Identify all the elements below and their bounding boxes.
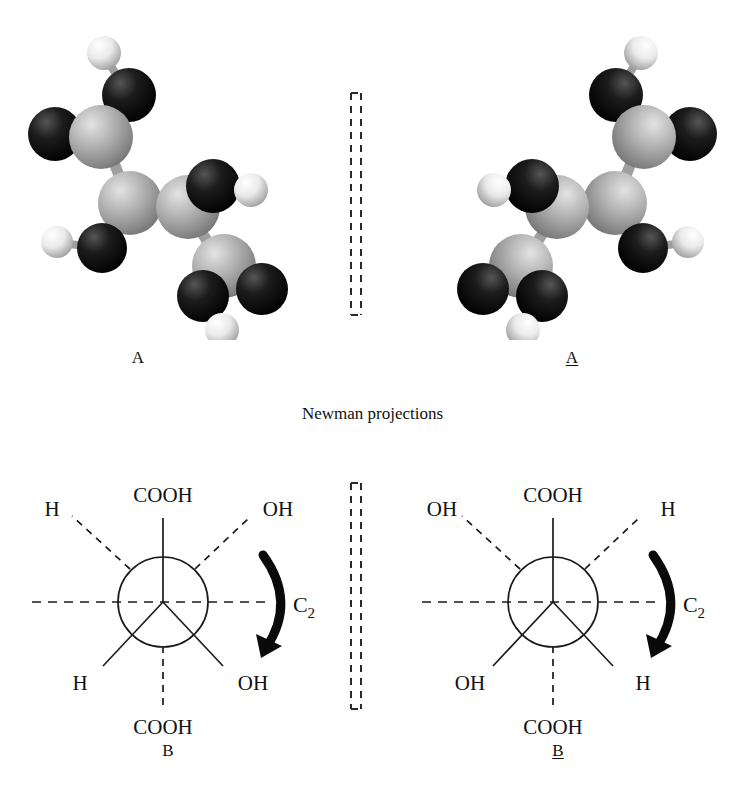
molecule-label-left: A [78,348,198,368]
newman-label-front-bottom-right: H [635,671,650,695]
newman-label-back-top-left: OH [427,497,457,521]
newman-projection-left: COOH H OH H OH COOH C2 [10,462,340,752]
newman-label-back-top-right: H [660,497,675,521]
back-bond-top-right [195,517,250,569]
back-bond-top-left [462,516,520,569]
atom-hydrogen [41,226,73,258]
atom-oxygen [457,263,509,315]
newman-label-front-bottom-left: H [72,671,87,695]
front-bond-bottom-right [163,602,223,666]
atom-oxygen [186,159,240,213]
atom-hydrogen [672,226,704,258]
atom-carbon [612,105,676,169]
atom-oxygen [236,263,288,315]
molecule-panel-right [373,0,745,340]
atom-hydrogen [87,36,121,70]
newman-label-front-top: COOH [523,483,583,507]
c2-rotation-arrow [646,555,672,658]
newman-label-back-bottom: COOH [133,715,193,739]
atom-oxygen [77,223,127,273]
atom-hydrogen [234,173,268,207]
figure-root: A A Newman projections [0,0,745,789]
back-bond-top-right [585,517,640,569]
molecule-panel-left [0,0,372,340]
figure-caption: Newman projections [0,404,745,424]
c2-symbol-label: C2 [293,592,315,621]
molecule-model-right [373,0,745,340]
atom-oxygen [505,159,559,213]
newman-label-front-bottom-left: OH [455,671,485,695]
atom-hydrogen [477,173,511,207]
newman-diagram-right: COOH OH H OH H COOH C2 [400,462,730,752]
c2-rotation-arrow [256,555,282,658]
newman-label-right: B [498,741,618,761]
newman-diagram-left: COOH H OH H OH COOH C2 [10,462,340,752]
front-bond-bottom-left [103,602,163,666]
newman-label-back-bottom: COOH [523,715,583,739]
newman-label-left: B [108,741,228,761]
molecule-label-right: A [512,348,632,368]
c2-symbol-label: C2 [683,592,705,621]
newman-label-front-bottom-right: OH [238,671,268,695]
atom-carbon [69,105,133,169]
upper-mirror-plane [348,88,364,320]
front-bond-bottom-left [493,602,553,666]
newman-label-back-top-right: OH [263,497,293,521]
lower-mirror-plane [348,478,364,714]
front-bond-bottom-right [553,602,613,666]
back-bond-top-left [72,516,130,569]
atom-hydrogen [624,36,658,70]
newman-label-back-top-left: H [44,497,59,521]
atom-oxygen [618,223,668,273]
molecule-model-left [0,0,372,340]
newman-label-front-top: COOH [133,483,193,507]
newman-projection-right: COOH OH H OH H COOH C2 [400,462,730,752]
